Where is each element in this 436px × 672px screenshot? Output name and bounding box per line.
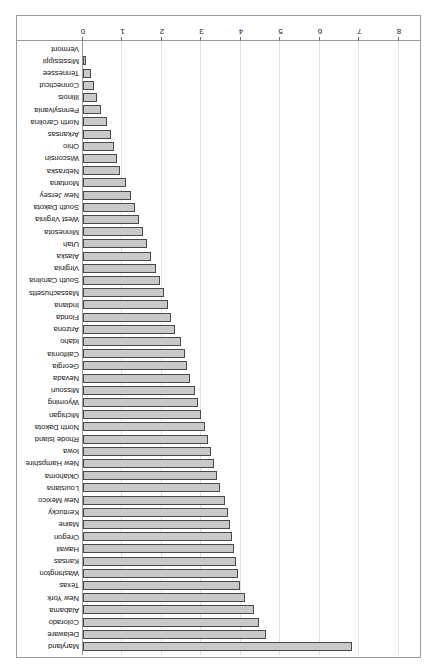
chart-tick-label: 1 xyxy=(111,26,135,36)
chart-category-label: Alaska xyxy=(56,252,79,261)
chart-bar xyxy=(83,398,198,407)
chart-category-label: Nevada xyxy=(53,374,79,383)
chart-bar xyxy=(83,361,187,370)
chart-category-label: Michigan xyxy=(49,411,79,420)
chart-category-label: Oklahoma xyxy=(45,472,79,481)
chart-bar xyxy=(83,618,259,627)
chart-category-label: California xyxy=(47,350,79,359)
chart-category-label: South Dakota xyxy=(34,203,79,212)
chart-bar xyxy=(83,532,232,541)
chart-tick-mark xyxy=(161,37,162,41)
chart-gridline xyxy=(319,41,320,655)
chart-bar xyxy=(83,374,190,383)
chart-tick-label: 4 xyxy=(229,26,253,36)
chart-category-label: Louisiana xyxy=(47,484,79,493)
chart-category-label: Rhode Island xyxy=(35,435,79,444)
chart-category-label: North Dakota xyxy=(35,423,79,432)
chart-tick-label: 0 xyxy=(71,26,95,36)
chart-category-label: New York xyxy=(47,594,79,603)
chart-bar xyxy=(83,288,164,297)
chart-bar xyxy=(83,325,175,334)
chart-category-label: Texas xyxy=(59,582,79,591)
chart-tick-mark xyxy=(359,37,360,41)
chart-bar xyxy=(83,422,205,431)
rotated-figure-container: 012345678 MarylandDelawareColoradoAlabam… xyxy=(0,0,436,672)
chart-category-label: Alabama xyxy=(49,606,79,615)
chart-category-label: Maine xyxy=(59,521,79,530)
chart-bar xyxy=(83,105,101,114)
chart-bar xyxy=(83,203,135,212)
chart-bar xyxy=(83,386,195,395)
chart-tick-mark xyxy=(398,37,399,41)
chart-category-label: Nebraska xyxy=(47,167,79,176)
chart-category-label: Illinois xyxy=(58,94,79,103)
chart-bar xyxy=(83,557,236,566)
chart-category-label: Ohio xyxy=(63,142,79,151)
chart-category-label: Montana xyxy=(50,179,79,188)
chart-bar xyxy=(83,459,214,468)
chart-bar xyxy=(83,508,228,517)
chart-gridline xyxy=(398,41,399,655)
chart-tick-label: 8 xyxy=(387,26,411,36)
chart-bar xyxy=(83,300,168,309)
chart-tick-mark xyxy=(240,37,241,41)
chart-bar xyxy=(83,69,91,78)
chart-gridline xyxy=(359,41,360,655)
chart-tick-label: 3 xyxy=(190,26,214,36)
chart-bar xyxy=(83,435,208,444)
chart-category-label: Arkansas xyxy=(48,130,79,139)
chart-category-label: West Virginia xyxy=(35,216,79,225)
chart-bar xyxy=(83,642,352,651)
chart-category-label: North Carolina xyxy=(31,118,79,127)
chart-category-label: Arizona xyxy=(54,325,79,334)
chart-bar xyxy=(83,581,240,590)
chart-category-label: Idaho xyxy=(60,338,79,347)
chart-plot-frame: 012345678 MarylandDelawareColoradoAlabam… xyxy=(16,15,421,658)
chart-bar xyxy=(83,337,181,346)
chart-bar xyxy=(83,313,171,322)
chart-bar xyxy=(83,239,147,248)
chart-bar xyxy=(83,166,120,175)
chart-category-label: Oregon xyxy=(54,533,79,542)
chart-bar xyxy=(83,252,151,261)
chart-bar xyxy=(83,483,220,492)
chart-category-label: Mississippi xyxy=(43,57,79,66)
chart-category-label: New Jersey xyxy=(40,191,79,200)
chart-bar xyxy=(83,142,114,151)
chart-bar xyxy=(83,471,217,480)
chart-category-label: Vermont xyxy=(51,45,79,54)
chart-category-label: Missouri xyxy=(51,386,79,395)
chart-bar xyxy=(83,410,202,419)
chart-bar xyxy=(83,593,245,602)
chart-tick-mark xyxy=(201,37,202,41)
chart-category-label: South Carolina xyxy=(29,277,79,286)
chart-bar xyxy=(83,191,131,200)
chart-bar xyxy=(83,544,234,553)
chart-tick-label: 6 xyxy=(308,26,332,36)
chart-category-label: Iowa xyxy=(63,447,79,456)
chart-bar xyxy=(83,264,156,273)
chart-bar xyxy=(83,630,266,639)
chart-category-label: Delaware xyxy=(47,630,79,639)
chart-gridline xyxy=(240,41,241,655)
chart-category-label: New Mexico xyxy=(38,496,79,505)
chart-category-label: Wisconsin xyxy=(45,155,79,164)
chart-category-label: Kentucky xyxy=(48,508,79,517)
chart-bar xyxy=(83,520,230,529)
chart-category-label: Tennessee xyxy=(43,69,79,78)
chart-tick-label: 7 xyxy=(348,26,372,36)
chart-bar xyxy=(83,349,185,358)
chart-bar xyxy=(83,178,126,187)
chart-category-label: Hawaii xyxy=(56,545,79,554)
chart-category-label: Massachusetts xyxy=(29,289,79,298)
chart-category-label: New Hampshire xyxy=(26,460,79,469)
chart-category-label: Virginia xyxy=(54,264,79,273)
chart-category-label: Kansas xyxy=(54,557,79,566)
chart-tick-mark xyxy=(319,37,320,41)
chart-x-axis-line xyxy=(17,40,420,41)
chart-category-label: Utah xyxy=(63,240,79,249)
chart-tick-mark xyxy=(122,37,123,41)
chart-category-label: Maryland xyxy=(48,643,79,652)
chart-bar xyxy=(83,447,211,456)
chart-tick-label: 5 xyxy=(269,26,293,36)
